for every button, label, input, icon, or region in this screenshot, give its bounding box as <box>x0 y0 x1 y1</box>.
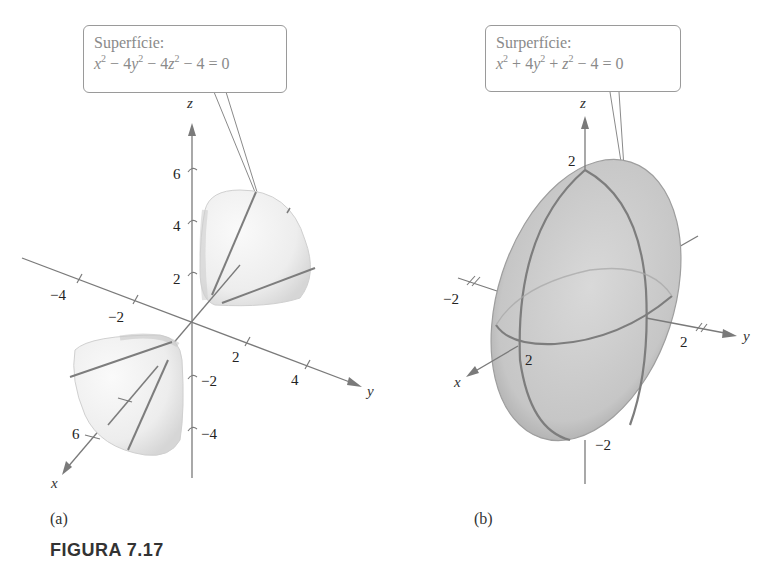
callout-a: Superfície: x2 − 4y2 − 4z2 − 4 = 0 <box>83 25 287 93</box>
z-tick-a-neg2: −2 <box>201 374 217 389</box>
x-axis-a-label: x <box>51 476 58 491</box>
y-axis-b-back <box>458 278 500 292</box>
callout-a-pointer <box>214 92 257 192</box>
x-axis-b-arrow-icon <box>466 366 479 377</box>
y-axis-a-arrow-icon <box>347 377 362 387</box>
y-tick-a-2: 2 <box>232 350 240 365</box>
z-tick-b-neg2: −2 <box>595 438 611 453</box>
z-axis-a-label: z <box>187 96 193 111</box>
z-tick-a-4: 4 <box>173 219 181 234</box>
panel-a-graph <box>22 92 362 478</box>
y-tick-b-2: 2 <box>680 335 688 350</box>
callout-b: Surperfície: x2 + 4y2 + z2 − 4 = 0 <box>485 25 681 92</box>
z-axis-b-label: z <box>580 96 586 111</box>
y-tick-b-neg2: −2 <box>443 292 459 307</box>
x-tick-b-2: 2 <box>525 353 533 368</box>
panel-a-label: (a) <box>50 510 68 528</box>
y-tick-a-neg2: −2 <box>108 310 124 325</box>
z-axis-b-arrow-icon <box>581 116 589 129</box>
callout-b-pointer <box>610 92 624 168</box>
z-tick-a-2: 2 <box>173 272 181 287</box>
y-axis-b-arrow-icon <box>722 329 737 338</box>
z-tick-a-6: 6 <box>173 167 181 182</box>
ellipsoid <box>457 135 714 465</box>
callout-a-title: Superfície: <box>94 32 276 53</box>
panel-b-label: (b) <box>474 510 493 528</box>
y-tick-a-4: 4 <box>291 373 299 388</box>
x-tick-a-6: 6 <box>72 427 80 442</box>
callout-a-equation: x2 − 4y2 − 4z2 − 4 = 0 <box>94 53 276 74</box>
y-axis-b-label: y <box>743 329 750 344</box>
panel-b-graph <box>457 92 737 484</box>
z-axis-a-arrow-icon <box>188 123 196 136</box>
z-tick-a-neg4: −4 <box>201 427 217 442</box>
callout-b-title: Surperfície: <box>496 32 670 53</box>
z-tick-b-2: 2 <box>568 154 576 169</box>
x-axis-b-label: x <box>454 375 461 390</box>
y-axis-a-label: y <box>367 384 374 399</box>
y-tick-a-neg4: −4 <box>50 288 66 303</box>
figure-caption: FIGURA 7.17 <box>50 540 164 561</box>
hyperboloid-lower-sheet <box>70 335 183 455</box>
hyperboloid-upper-sheet <box>200 190 315 306</box>
callout-b-equation: x2 + 4y2 + z2 − 4 = 0 <box>496 53 670 74</box>
